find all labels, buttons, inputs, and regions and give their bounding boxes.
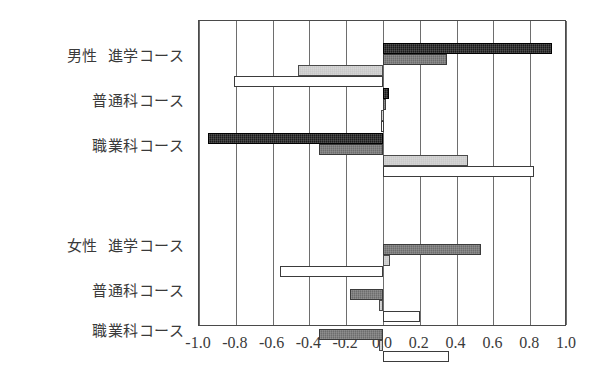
bar bbox=[319, 329, 383, 340]
x-tick-label: -0.4 bbox=[296, 334, 321, 352]
x-tick-label: 1.0 bbox=[556, 334, 576, 352]
bar bbox=[298, 65, 383, 76]
bar bbox=[383, 351, 449, 362]
bar-chart-figure: 男性進学コース普通科コース職業科コース女性進学コース普通科コース職業科コース -… bbox=[0, 0, 614, 376]
y-axis-label-1: 男性進学コース bbox=[67, 44, 185, 65]
y-label-gender: 女性 bbox=[67, 238, 98, 254]
bar bbox=[381, 110, 384, 121]
x-tick-label: 0.6 bbox=[482, 334, 502, 352]
x-tick-label: -0.6 bbox=[259, 334, 284, 352]
y-label-course: 職業科コース bbox=[92, 138, 184, 154]
y-label-course: 職業科コース bbox=[92, 323, 184, 339]
bar bbox=[350, 289, 383, 300]
bar bbox=[319, 144, 383, 155]
bar bbox=[383, 311, 420, 322]
bar bbox=[383, 43, 552, 54]
x-tick-label: 0.4 bbox=[446, 334, 466, 352]
bar bbox=[383, 99, 386, 110]
y-axis-label-5: 普通科コース bbox=[92, 279, 184, 300]
x-tick-label: -1.0 bbox=[185, 334, 210, 352]
y-axis-label-4: 女性進学コース bbox=[67, 234, 185, 255]
bar bbox=[208, 133, 383, 144]
x-tick-label: 0.8 bbox=[519, 334, 539, 352]
bar bbox=[383, 155, 468, 166]
y-label-course: 進学コース bbox=[108, 238, 185, 254]
bar bbox=[383, 255, 390, 266]
bar bbox=[234, 76, 383, 87]
bar bbox=[383, 54, 447, 65]
y-axis-label-2: 普通科コース bbox=[92, 89, 184, 110]
bar bbox=[379, 340, 383, 351]
y-axis-label-3: 職業科コース bbox=[92, 134, 184, 155]
bar bbox=[383, 88, 389, 99]
plot-area bbox=[198, 20, 566, 326]
bars-layer bbox=[199, 21, 565, 325]
y-label-course: 普通科コース bbox=[92, 93, 184, 109]
bar bbox=[379, 300, 383, 311]
x-tick-label: 0.2 bbox=[409, 334, 429, 352]
y-axis-category-labels: 男性進学コース普通科コース職業科コース女性進学コース普通科コース職業科コース bbox=[0, 0, 196, 376]
y-label-course: 普通科コース bbox=[92, 283, 184, 299]
x-tick-label: -0.8 bbox=[222, 334, 247, 352]
bar bbox=[280, 266, 383, 277]
gridline bbox=[566, 21, 567, 325]
y-axis-label-6: 職業科コース bbox=[92, 319, 184, 340]
y-label-course: 進学コース bbox=[108, 48, 185, 64]
bar bbox=[383, 166, 534, 177]
bar bbox=[381, 121, 384, 132]
y-label-gender: 男性 bbox=[67, 48, 98, 64]
bar bbox=[383, 244, 481, 255]
